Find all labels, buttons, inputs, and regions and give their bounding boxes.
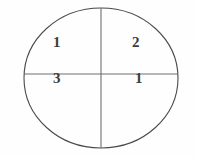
quadrant-label-upper-left: 1 <box>53 35 61 50</box>
diagram-canvas <box>0 0 197 157</box>
quadrant-label-lower-right: 1 <box>135 71 143 86</box>
quadrant-label-upper-right: 2 <box>132 35 140 50</box>
quadrant-circle-diagram: 1 2 3 1 <box>0 0 197 157</box>
quadrant-label-lower-left: 3 <box>53 71 61 86</box>
